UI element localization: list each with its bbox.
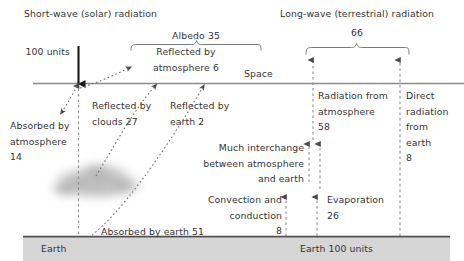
absorbed-atmosphere-label: Absorbed by atmosphere 14 <box>10 118 70 165</box>
space-label: Space <box>244 66 273 82</box>
longwave-bracket <box>306 44 409 55</box>
earth-units-label: Earth 100 units <box>300 241 373 257</box>
reflected-atmosphere-arrow <box>80 68 129 88</box>
reflected-earth-label: Reflected by earth 2 <box>170 98 229 129</box>
albedo-label: Albedo 35 <box>146 28 246 44</box>
radiation-budget-diagram: Short-wave (solar) radiation Long-wave (… <box>0 0 464 261</box>
absorbed-atmosphere-arrow <box>62 86 77 112</box>
longwave-total: 66 <box>307 25 407 41</box>
longwave-title: Long-wave (terrestrial) radiation <box>257 6 457 22</box>
absorbed-earth-label: Absorbed by earth 51 <box>101 224 204 240</box>
earth-label: Earth <box>41 241 66 257</box>
cloud-icon <box>50 162 142 199</box>
earth-surface-band <box>23 237 450 261</box>
shortwave-title: Short-wave (solar) radiation <box>24 6 157 22</box>
direct-radiation-earth-label: Direct radiation from earth 8 <box>406 88 448 166</box>
interchange-label: Much interchange between atmosphere and … <box>188 140 304 187</box>
evaporation-label: Evaporation 26 <box>327 192 384 223</box>
incoming-units-label: 100 units <box>10 44 70 60</box>
radiation-from-atmosphere-label: Radiation from atmosphere 58 <box>318 88 388 135</box>
reflected-clouds-label: Reflected by clouds 27 <box>92 98 151 129</box>
reflected-atmosphere-label: Reflected by atmosphere 6 <box>131 44 241 75</box>
